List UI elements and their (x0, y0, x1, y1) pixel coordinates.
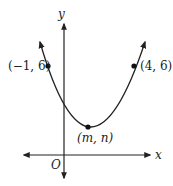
x-axis-label: x (155, 148, 162, 162)
vertex-label: (m, n) (77, 131, 113, 145)
y-axis-label: y (57, 7, 65, 21)
parabola-curve (40, 42, 145, 127)
vertex-point (85, 124, 90, 129)
parabola-diagram: y x O (−1, 6) (4, 6) (m, n) (0, 0, 173, 186)
point-label-4-6: (4, 6) (140, 59, 172, 73)
point-4-6 (131, 63, 136, 68)
origin-label: O (51, 158, 61, 172)
point-label-neg1-6: (−1, 6) (8, 59, 50, 73)
